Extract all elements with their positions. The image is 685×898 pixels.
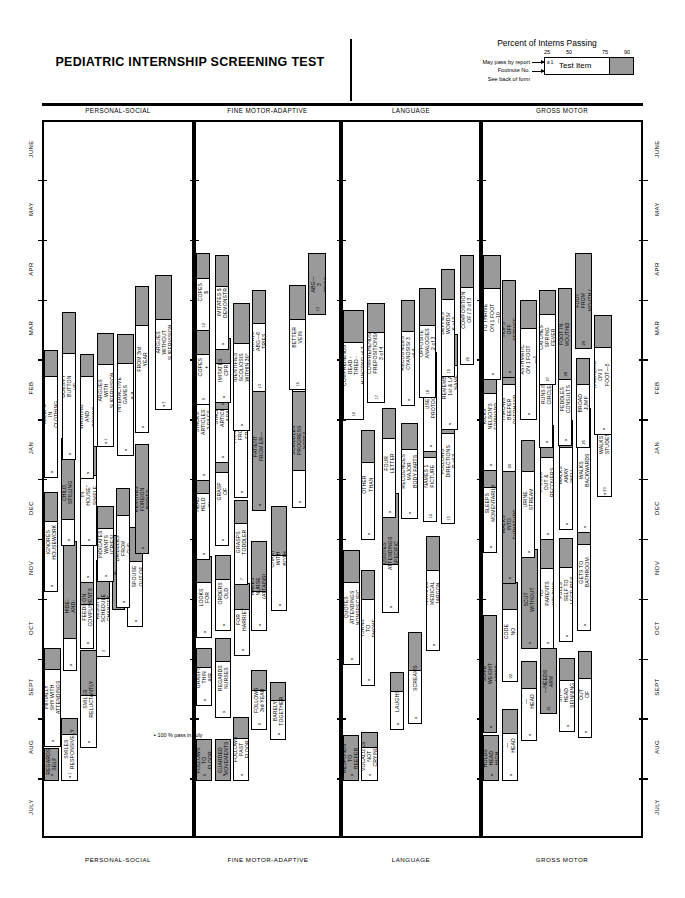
test-item-rakes-nurse[interactable]: RAKES NURSE (ATTAINS)a — [251, 541, 267, 631]
test-item-guarded-movements[interactable]: GUARDED MOVEMENTSa — [215, 739, 231, 781]
test-item-puts-foot-in-mouth[interactable]: PUTS FOOT IN MOUTH/2 of 328 — [558, 288, 572, 380]
test-item-label: BANGS HEAD HELD IN HANDS — [196, 496, 210, 514]
test-item-argues-without-supervision[interactable]: ARGUES WITHOUT SUPERVISIONa 3 — [155, 275, 172, 410]
test-item-admits-failure-thrive[interactable]: ADMITS FAILURE TO THRIVE ON 1 FOOT—10 SE… — [483, 255, 501, 380]
test-item-rounds-head-up-45[interactable]: ROUNDS— HEAD UP 45°a — [502, 709, 518, 781]
test-item-separates-3rd-year[interactable]: SEPARATES FROM 3rd YEAR EASILYa — [135, 286, 149, 433]
test-item-picks-better-vein[interactable]: PICKS BETTER VEIN 3 of 316 — [289, 285, 306, 390]
test-item-broad-jump[interactable]: BROAD JUMP25 — [576, 358, 590, 448]
month-axis-left: JULYAUGSEPTOCTNOVDECJANFEBMARAPRMAYJUNE — [22, 120, 40, 838]
test-item-admits-anorexic[interactable]: ADMITS ANOREXIC ON 1 FOOT—5 SECONDS/2 of… — [594, 315, 612, 435]
header-vertical-rule — [350, 39, 352, 101]
test-item-removes-foot-mouth[interactable]: REMOVES FOOT FROM MOUTH / 2 of 329 — [575, 253, 592, 349]
test-item-rounds-arm-support[interactable]: ROUNDS—NEEDS ARM SUPPORT21 — [540, 648, 557, 714]
test-item-argues-with-supervision[interactable]: ARGUES WITH SUPERVISIONa 1 — [97, 333, 114, 447]
test-item-footnote: a — [134, 613, 138, 627]
test-item-footnote: a — [546, 527, 550, 540]
test-item-vocalizes-not-crying[interactable]: VOCALIZES NOT CRYINGa — [361, 732, 378, 781]
test-item-draws-abg-3[interactable]: DRAWS ABG— 3 TRIES13 — [308, 253, 326, 315]
test-item-follows-3rd-year[interactable]: FOLLOWS 3rd YEAR4 — [251, 670, 267, 730]
test-item-barely-together[interactable]: BARELY TOGETHERa — [270, 682, 286, 740]
test-item-label: GRASPS TODDLER — [235, 530, 247, 555]
test-item-bears-some-weight[interactable]: BEARS SOME WEIGHT AFTER CALLa — [483, 615, 497, 733]
test-item-comprehends-dead-tired[interactable]: COMPREHENDS DEAD - TIRED - HUNGRY/2 of 3… — [343, 310, 364, 420]
test-item-laughs[interactable]: LAUGHSa — [390, 672, 404, 730]
test-item-catches-spring-fever[interactable]: CATCHES SPRING FEVER27 — [539, 290, 556, 385]
test-item-dribbles-from-cup[interactable]: DRIBBLES FROM CUPa — [116, 488, 130, 608]
test-item-combines-four-letter[interactable]: COMBINES FOUR LETTER WORDSa — [382, 408, 396, 518]
test-item-imitates-dollar[interactable]: IMITATES $ DEMONSTR.a — [215, 255, 229, 350]
test-item-indicates-wants[interactable]: INDICATES WANTS (CRIES)a — [97, 506, 114, 582]
test-item-sit-head-spinning[interactable]: SIT—HEAD SPINNINGa — [559, 658, 575, 732]
test-item-footnote: 22 — [509, 668, 513, 682]
test-item-dumps-patient-demonstr[interactable]: DUMPS PATIENT FROM ER—DEMONSTR.a — [252, 381, 266, 511]
test-item-label: ADMITS ANOREXIC ON 1 FOOT—5 SECONDS/2 of… — [594, 360, 612, 390]
test-item-turns-to-phone[interactable]: TURNS TO PHONEa — [361, 570, 375, 686]
test-item-footnote: a — [203, 624, 207, 638]
test-item-pulls-self-lectures[interactable]: PULLS SELF TO LECTURESa — [559, 538, 573, 642]
test-item-sit-orders-old-chart[interactable]: SIT, ORDERS OLD CHARTa — [215, 555, 231, 631]
test-item-quotes-nonspecific[interactable]: QUOTES ATTENDINGS NONSPECIFICa — [343, 550, 360, 665]
test-item-label: SEPARATES FROM 3rd YEAR EASILY — [135, 344, 149, 375]
test-item-copes-dollar[interactable]: COPES $12 — [196, 253, 210, 331]
test-item-holds-head-high[interactable]: HOLDS HEAD HIGHa — [483, 735, 499, 781]
test-item-draws-abg-6[interactable]: DRAWS ABG—6 TRIES13 — [252, 290, 266, 392]
test-item-defines-words[interactable]: DEFINES WORDS/ 6 of 919 — [441, 269, 455, 377]
test-item-resists-washing[interactable]: RESISTS WASHING AND DRYING HANDSa — [80, 354, 94, 479]
test-item-composition-of[interactable]: COMPOSITION OF / 3 of 320 — [460, 255, 474, 365]
test-item-rolls-out-of-bed[interactable]: ROLLS OUT OF BEDa — [578, 651, 592, 738]
test-item-hops-off-service[interactable]: HOPS OFF SERVICEa — [502, 280, 516, 378]
test-item-label-wrap: WALKS INTO FURNITURE — [503, 465, 515, 583]
test-item-opposite-analogies[interactable]: OPPOSITE ANALOGIES 2 of 318 — [419, 288, 436, 398]
test-item-label: IMITATES MEDICAL JARGON — [426, 582, 440, 606]
test-item-walks-into-furniture[interactable]: WALKS INTO FURNITUREa — [502, 464, 516, 584]
test-item-regards-self[interactable]: REGARDS SELFa — [44, 748, 59, 781]
test-item-three-words-other[interactable]: 3 WORDS OTHER THAN WHAT MEa — [361, 430, 375, 540]
test-item-plays-hide-and-seek[interactable]: PLAYS HIDE-AND-SEEKa — [63, 541, 77, 671]
test-item-footnote: a 3 — [162, 395, 166, 410]
test-item-removes-foreign-bodies[interactable]: REMOVES FOREIGN BODIESa — [135, 444, 149, 554]
test-item-footnote: a — [202, 547, 206, 560]
test-item-ignores-housework[interactable]: IGNORES HOUSEWORKa — [44, 492, 58, 592]
test-item-smiles-reluctantly[interactable]: SMILES RELUCTANTLYa — [80, 650, 97, 748]
test-item-comprehends-prepositions[interactable]: COMPREHENDS PREPOSITIONS/ 3 of 417 — [367, 303, 385, 403]
test-item-runs-to-code[interactable]: RUNS TO CODE NO HEAD LAG22 — [502, 582, 518, 682]
test-item-admits-asthmatic[interactable]: ADMITS ASTHMATIC ON 1 FOOT—1 SECONDa — [520, 300, 537, 420]
test-item-footnote: a — [566, 718, 570, 732]
test-item-talks-to-parents[interactable]: TALKS TO PARENTS HOLDING ONa — [540, 539, 554, 649]
test-item-footnote: 14 — [429, 509, 433, 522]
test-item-ducks-urine-stream[interactable]: DUCKS URINE STREAM WELLa — [521, 440, 535, 558]
test-item-recognizes-cyanosis[interactable]: RECOGNIZES CYANOSIS/ 3 of 4a — [401, 300, 415, 406]
test-item-screams[interactable]: SCREAMSa — [408, 632, 422, 724]
test-item-reaches-harriet-lane[interactable]: REACHES FOR HARRIET LANEa — [234, 583, 250, 656]
test-item-doesnt-button-up[interactable]: DOESN'T BUTTON UPa — [62, 312, 76, 460]
test-item-recognizes-body-parts[interactable]: RECOGNIZES MAJOR BODY PARTSa — [401, 423, 418, 519]
legend-label-may-pass: May pass by report — [434, 59, 530, 65]
test-item-identifies-scoliosis[interactable]: IDENTIFIES SCOLIOSIS WITHIN 30°a — [233, 303, 250, 431]
test-item-copes-plus[interactable]: COPES +9 — [196, 330, 210, 405]
test-item-rounds-head-up-90[interactable]: ROUNDS— HEAD UP 90°a — [521, 661, 537, 741]
test-item-carries-chart[interactable]: CARRIES CHART WITH BOTH HANDSa — [271, 506, 287, 611]
test-item-label-wrap: RECOGNIZES CYANOSIS/ 3 of 4 — [402, 301, 414, 405]
test-item-initially-shy[interactable]: INITIALLY SHY WITH ATTENDINGSa — [44, 648, 61, 747]
test-item-responds-to-beeper[interactable]: RESPONDS TO BEEPERa — [343, 735, 359, 781]
month-label-nov-left: NOV — [28, 548, 34, 588]
test-item-regards-nurses[interactable]: REGARDS NURSESa — [215, 638, 231, 718]
test-item-footnote: a — [278, 597, 282, 611]
test-item-sit-looks-for-pillow[interactable]: SIT, LOOKS FOR PILLOWa — [196, 556, 212, 638]
test-item-imitates-medical-jargon[interactable]: IMITATES MEDICAL JARGONa — [426, 536, 440, 651]
test-item-sleeps-in-clothing[interactable]: SLEEPS IN CLOTHINGa — [44, 350, 58, 478]
test-item-follows-to-floor[interactable]: FOLLOWS TO FLOOR4 — [196, 739, 212, 781]
month-label-jan-left: JAN — [28, 428, 34, 468]
month-label-may-left: MAY — [28, 189, 34, 229]
test-item-does-scut[interactable]: DOES SCUT WITHOUT SUPPORTa — [521, 549, 538, 649]
test-item-label: REGARDS NURSES — [217, 665, 229, 691]
test-item-grasps-toddler[interactable]: GRASPS TODDLER7 — [234, 500, 248, 585]
test-item-follows-past-floor[interactable]: FOLLOWS PAST FLOORa — [233, 717, 249, 781]
axis-tick — [477, 240, 486, 241]
test-item-scribbles-progress-notes[interactable]: SCRIBBLES PROGRESS NOTESa — [292, 373, 306, 508]
test-item-plays-interactive-games[interactable]: PLAYS INTERACTIVE GAMES e.g. STONEWALLIN… — [117, 334, 134, 456]
test-item-smiles-responsively[interactable]: SMILES RESPONSIVELYa 1 — [61, 718, 78, 781]
test-item-grasps-thin-air[interactable]: GRASPS THIN AIRa — [196, 648, 212, 706]
test-item-label: SIT—HEAD SPINNING — [559, 682, 575, 707]
